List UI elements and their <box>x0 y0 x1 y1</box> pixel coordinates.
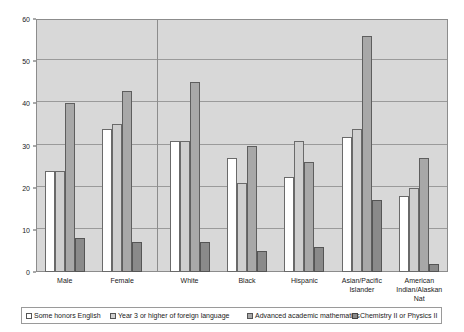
y-tick-label-0: 0 <box>26 269 30 276</box>
x-axis-category-labels: MaleFemaleWhiteBlackHispanicAsian/Pacifi… <box>36 276 448 300</box>
bar <box>362 36 372 272</box>
legend-label: Chemistry II or Physics II <box>360 311 437 320</box>
bar <box>372 200 382 272</box>
legend-label: Year 3 or higher of foreign language <box>118 311 229 320</box>
chart-legend: Some honors EnglishYear 3 or higher of f… <box>21 307 442 324</box>
legend-label: Advanced academic mathematics <box>255 311 360 320</box>
bar <box>55 171 65 272</box>
bar-group <box>391 19 448 272</box>
bar <box>65 103 75 272</box>
legend-swatch-icon <box>26 313 32 319</box>
y-tick-label-50: 50 <box>22 58 30 65</box>
bar <box>227 158 237 272</box>
legend-swatch-icon <box>247 313 253 319</box>
bar <box>294 141 304 272</box>
bar <box>122 91 132 272</box>
x-category-label: Black <box>218 276 275 285</box>
bar-group <box>333 19 390 272</box>
bar <box>102 129 112 272</box>
bar <box>247 146 257 273</box>
y-tick-label-30: 30 <box>22 142 30 149</box>
bar <box>429 264 439 272</box>
y-axis: 0102030405060 <box>0 19 36 272</box>
grouped-bar-chart: 0102030405060 MaleFemaleWhiteBlackHispan… <box>0 0 464 332</box>
legend-item[interactable]: Some honors English <box>26 311 101 320</box>
bar <box>112 124 122 272</box>
bars-layer <box>36 19 448 272</box>
y-tick-label-20: 20 <box>22 184 30 191</box>
legend-label: Some honors English <box>34 311 101 320</box>
legend-swatch-icon <box>352 313 358 319</box>
bar <box>45 171 55 272</box>
bar <box>200 242 210 272</box>
bar <box>237 183 247 272</box>
y-tick-label-10: 10 <box>22 226 30 233</box>
bar <box>257 251 267 272</box>
bar <box>284 177 294 272</box>
bar-group <box>93 19 150 272</box>
bar <box>409 188 419 272</box>
bar <box>180 141 190 272</box>
y-tick-label-60: 60 <box>22 16 30 23</box>
bar <box>399 196 409 272</box>
legend-item[interactable]: Year 3 or higher of foreign language <box>110 311 229 320</box>
bar <box>304 162 314 272</box>
x-category-label: Hispanic <box>276 276 333 285</box>
bar <box>170 141 180 272</box>
bar-group <box>36 19 93 272</box>
bar-group <box>276 19 333 272</box>
bar <box>342 137 352 272</box>
x-category-label: White <box>161 276 218 285</box>
x-category-label: American Indian/Alaskan Nat <box>391 276 448 303</box>
bar <box>190 82 200 272</box>
legend-item[interactable]: Chemistry II or Physics II <box>352 311 437 320</box>
bar <box>75 238 85 272</box>
legend-swatch-icon <box>110 313 116 319</box>
x-category-label: Asian/Pacific Islander <box>333 276 390 294</box>
bar-group <box>218 19 275 272</box>
bar <box>314 247 324 272</box>
bar-group <box>161 19 218 272</box>
legend-item[interactable]: Advanced academic mathematics <box>247 311 360 320</box>
bar <box>419 158 429 272</box>
y-tick-label-40: 40 <box>22 100 30 107</box>
bar <box>352 129 362 272</box>
x-category-label: Female <box>93 276 150 285</box>
bar <box>132 242 142 272</box>
x-category-label: Male <box>36 276 93 285</box>
